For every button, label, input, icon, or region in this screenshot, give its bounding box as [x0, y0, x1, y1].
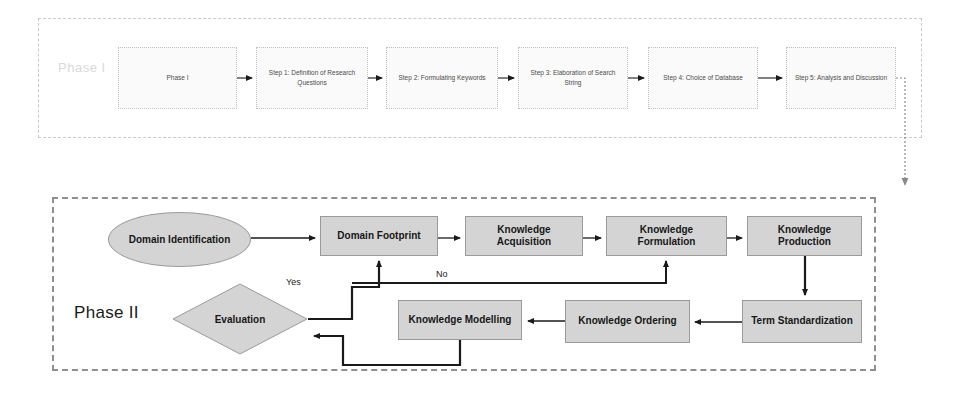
phase1-node-phase-i: Phase I	[118, 47, 237, 109]
phase1-node-step-1: Step 1: Definition of Research Questions	[256, 47, 368, 109]
diagram-canvas: Phase I Phase I Step 1: Definition of Re…	[0, 0, 954, 400]
edge-label-yes: Yes	[286, 277, 301, 287]
node-evaluation-label: Evaluation	[172, 283, 308, 355]
node-knowledge-acquisition: Knowledge Acquisition	[465, 216, 583, 256]
edge-label-no: No	[436, 269, 448, 279]
node-knowledge-formulation: Knowledge Formulation	[606, 216, 727, 256]
node-evaluation: Evaluation	[172, 283, 308, 355]
phase1-node-step-5: Step 5: Analysis and Discussion	[786, 47, 896, 109]
node-knowledge-production: Knowledge Production	[747, 216, 862, 256]
phase1-node-step-4: Step 4: Choice of Database	[648, 47, 758, 109]
node-knowledge-modelling: Knowledge Modelling	[398, 300, 522, 340]
phase1-node-step-3: Step 3: Elaboration of Search String	[518, 47, 628, 109]
node-domain-identification: Domain Identification	[108, 212, 251, 267]
node-term-standardization: Term Standardization	[742, 300, 862, 343]
phase-2-label: Phase II	[74, 303, 139, 323]
node-domain-footprint: Domain Footprint	[320, 216, 438, 256]
phase1-node-step-2: Step 2: Formulating Keywords	[386, 47, 498, 109]
node-knowledge-ordering: Knowledge Ordering	[565, 300, 690, 343]
